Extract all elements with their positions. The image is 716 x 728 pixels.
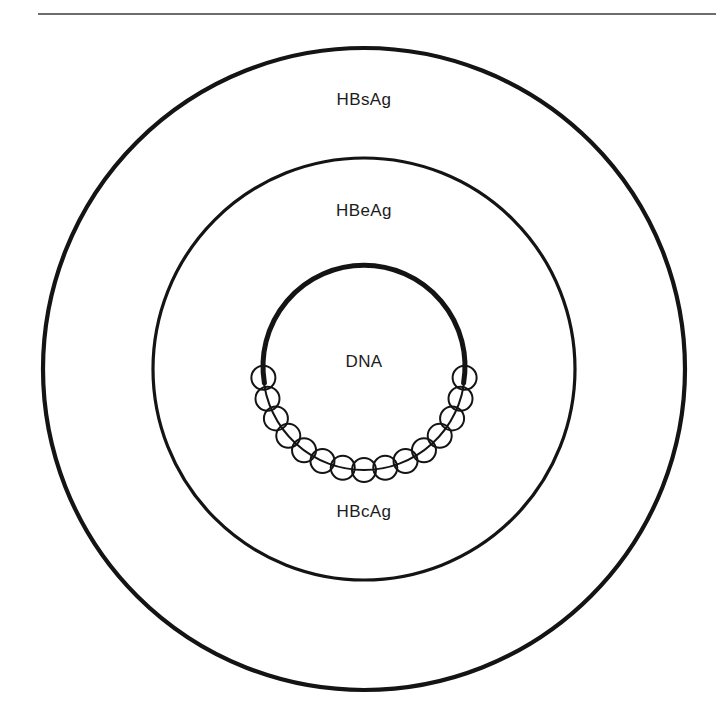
label-hbsag: HBsAg: [337, 90, 392, 109]
hbv-structure-diagram: HBsAg HBeAg DNA HBcAg: [0, 0, 716, 728]
figure-root: HBsAg HBeAg DNA HBcAg: [0, 0, 716, 728]
label-hbcag: HBcAg: [337, 502, 392, 521]
label-dna: DNA: [345, 352, 382, 371]
label-hbeag: HBeAg: [336, 201, 392, 220]
